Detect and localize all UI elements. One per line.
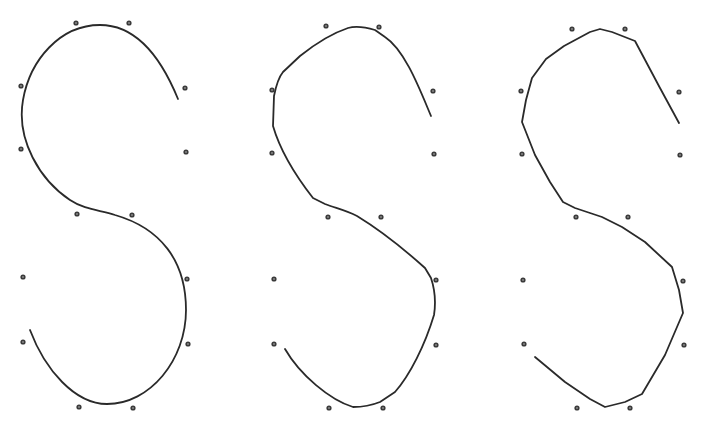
control-point-center [521,153,523,155]
panel-polyline-curve [518,26,686,410]
control-point-center [624,28,626,30]
control-point-center [273,278,275,280]
control-point-center [75,22,77,24]
control-point-center [184,87,186,89]
control-point-center [186,278,188,280]
control-point-center [435,344,437,346]
panel-faceted-curve [269,23,438,410]
diagram-canvas [0,0,701,425]
control-point-center [128,22,130,24]
control-point-center [627,216,629,218]
control-point-center [328,407,330,409]
control-point-center [271,152,273,154]
control-point-center [20,148,22,150]
control-point-center [271,89,273,91]
control-points-panel-2 [269,23,438,410]
control-points-panel-1 [18,20,190,410]
control-point-center [571,28,573,30]
control-point-center [273,343,275,345]
control-point-center [325,25,327,27]
control-point-center [78,406,80,408]
control-point-center [522,279,524,281]
control-point-center [433,153,435,155]
spline-curve-smooth [22,25,186,404]
control-point-center [22,341,24,343]
control-point-center [683,344,685,346]
control-point-center [435,279,437,281]
control-point-center [327,216,329,218]
control-point-center [132,407,134,409]
spline-curve-faceted [273,27,435,407]
spline-curve-polyline [522,29,683,407]
control-point-center [76,213,78,215]
control-point-center [187,343,189,345]
control-point-center [432,90,434,92]
control-point-center [523,343,525,345]
control-point-center [520,90,522,92]
control-point-center [575,216,577,218]
control-point-center [378,26,380,28]
control-point-center [131,214,133,216]
control-point-center [20,85,22,87]
control-point-center [678,91,680,93]
control-point-center [382,407,384,409]
control-point-center [679,154,681,156]
control-point-center [682,280,684,282]
control-point-center [22,276,24,278]
control-points-panel-3 [518,26,686,410]
control-point-center [576,407,578,409]
control-point-center [629,407,631,409]
control-point-center [185,151,187,153]
panel-smooth-curve [18,20,190,410]
control-point-center [380,216,382,218]
